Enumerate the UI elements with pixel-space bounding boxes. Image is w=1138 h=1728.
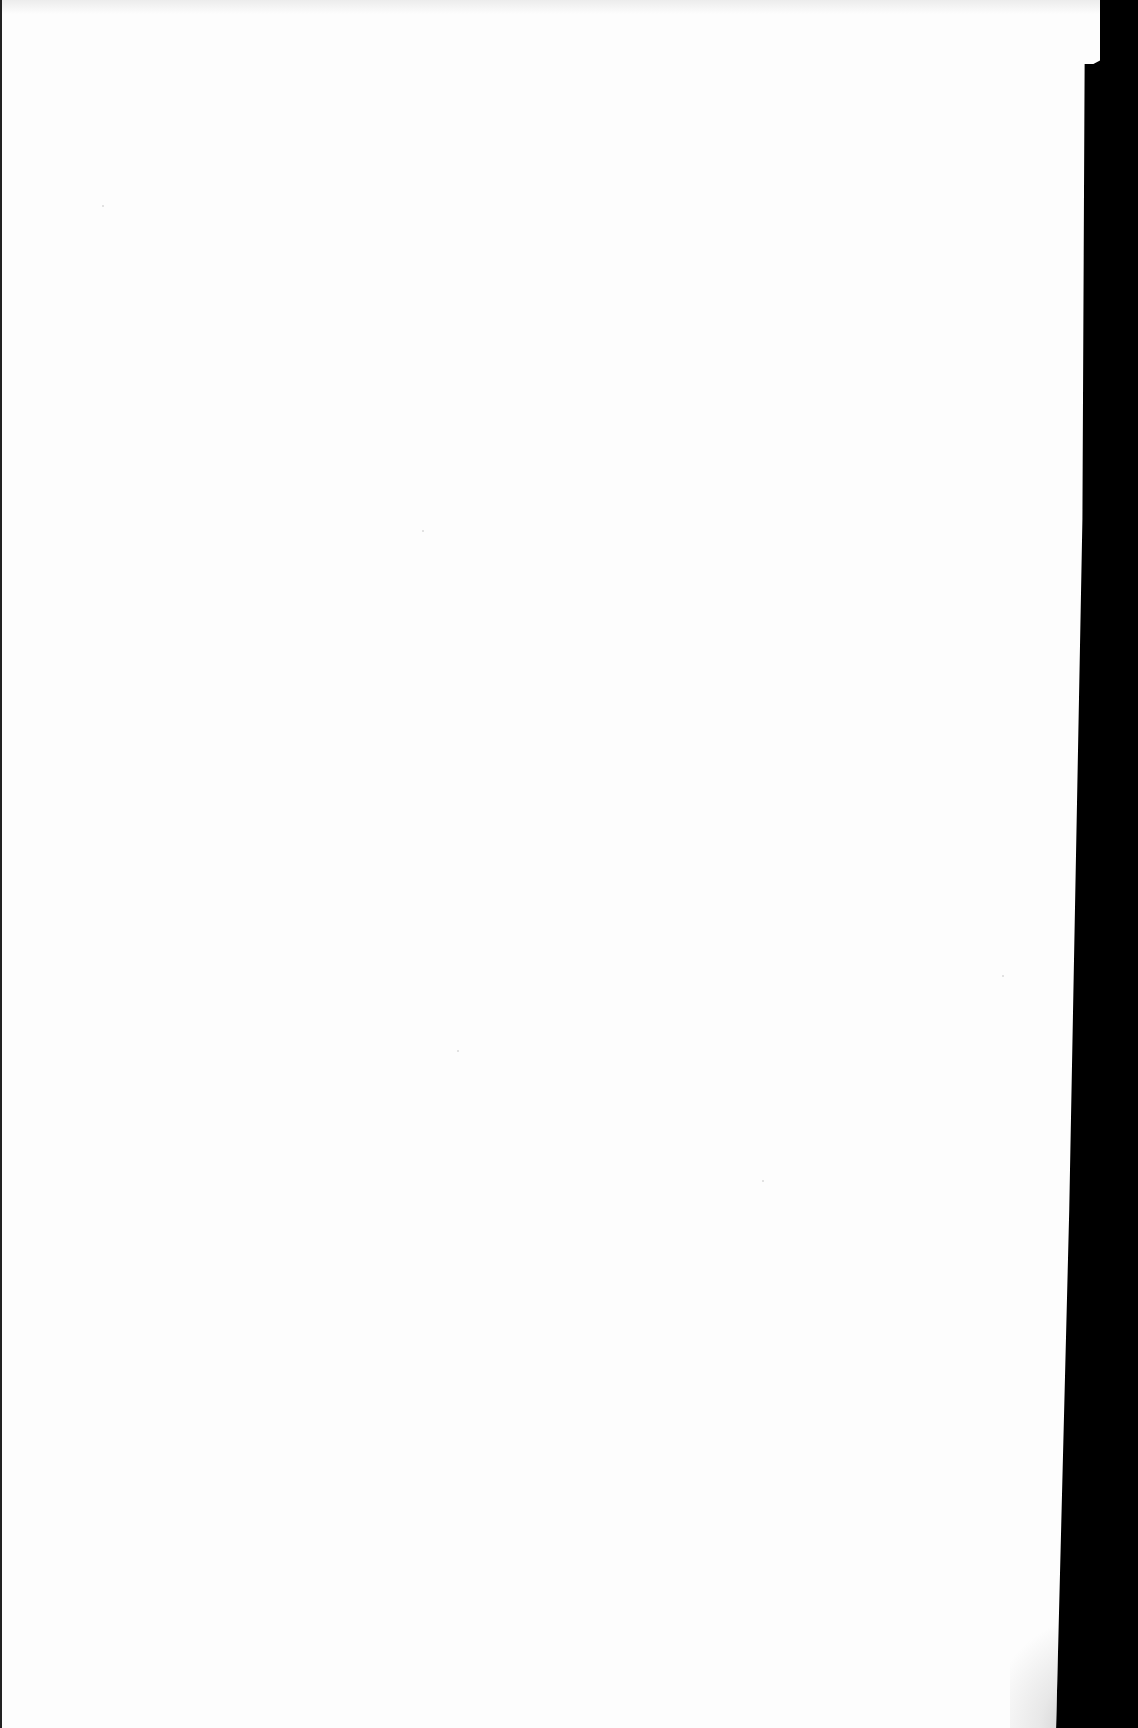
corner-shadow (1010, 1608, 1100, 1728)
blank-paper-page (2, 0, 1100, 1728)
scan-background (0, 0, 1138, 1728)
paper-speck (1002, 975, 1004, 977)
paper-speck (762, 1180, 764, 1182)
paper-speck (457, 1050, 459, 1052)
paper-speck (422, 530, 424, 532)
top-edge-shade (2, 0, 1100, 14)
page-content (82, 80, 960, 1648)
paper-speck (102, 205, 104, 207)
